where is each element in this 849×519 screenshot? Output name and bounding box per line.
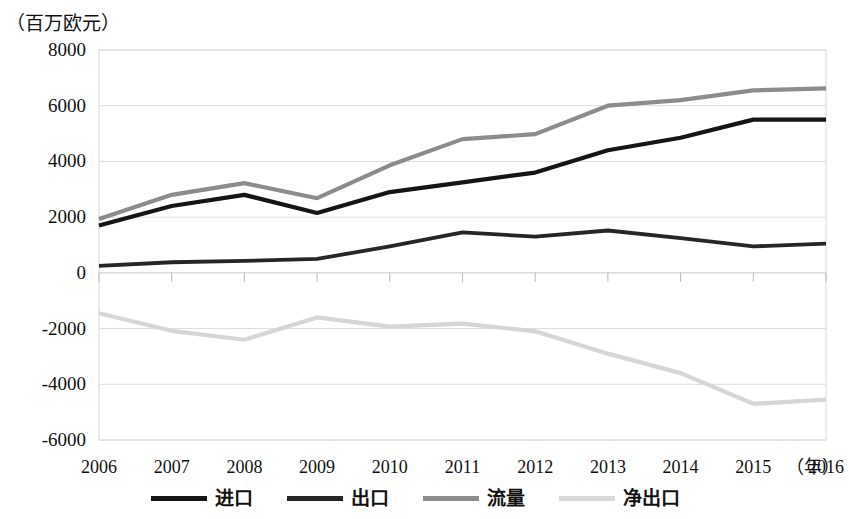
x-axis-tick-label: 2006: [66, 458, 132, 476]
legend-swatch-icon: [287, 496, 343, 501]
series-line-3: [99, 313, 826, 404]
series-line-1: [99, 231, 826, 266]
x-axis-tick-label: 2015: [720, 458, 786, 476]
chart-legend: 进口出口流量净出口: [0, 489, 831, 508]
legend-swatch-icon: [559, 496, 615, 501]
plot-border: [99, 50, 826, 440]
x-axis-tick-label: 2011: [430, 458, 496, 476]
legend-swatch-icon: [423, 496, 479, 501]
legend-item-3[interactable]: 净出口: [559, 489, 680, 508]
legend-swatch-icon: [151, 496, 207, 501]
x-axis-tick-label: 2013: [575, 458, 641, 476]
x-axis-tick-label: 2008: [211, 458, 277, 476]
legend-label: 流量: [487, 489, 525, 508]
legend-item-0[interactable]: 进口: [151, 489, 253, 508]
x-axis-tick-label: 2009: [284, 458, 350, 476]
legend-label: 进口: [215, 489, 253, 508]
legend-label: 出口: [351, 489, 389, 508]
series-line-0: [99, 120, 826, 226]
legend-item-2[interactable]: 流量: [423, 489, 525, 508]
legend-item-1[interactable]: 出口: [287, 489, 389, 508]
x-axis-tick-label: 2014: [648, 458, 714, 476]
legend-label: 净出口: [623, 489, 680, 508]
x-axis-unit-label: （年）: [786, 458, 840, 476]
x-axis-tick-label: 2007: [139, 458, 205, 476]
x-axis-tick-label: 2012: [502, 458, 568, 476]
x-axis-tick-label: 2010: [357, 458, 423, 476]
